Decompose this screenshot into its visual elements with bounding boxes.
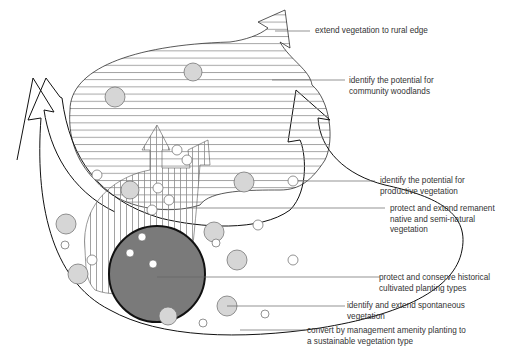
label-line: cultivated planting types: [379, 284, 490, 295]
core-dot: [126, 249, 134, 257]
label-line: protect and extend remanent: [390, 204, 495, 215]
label-historical-planting: protect and conserve historical cultivat…: [379, 273, 490, 294]
label-line: native and semi-natural: [390, 215, 495, 226]
label-line: protect and conserve historical: [379, 273, 490, 284]
label-line: a sustainable vegetation type: [307, 337, 466, 348]
label-line: productive vegetation: [380, 187, 465, 198]
label-line: identify and extend spontaneous: [347, 301, 465, 312]
label-line: vegetation: [390, 225, 495, 236]
historical-core: [109, 226, 205, 322]
label-productive-vegetation: identify the potential for productive ve…: [380, 176, 465, 197]
label-rural-edge: extend vegetation to rural edge: [315, 26, 428, 37]
label-line: extend vegetation to rural edge: [315, 26, 428, 37]
label-line: vegetation: [347, 312, 465, 323]
core-dot: [149, 260, 157, 268]
label-community-woodlands: identify the potential for community woo…: [349, 76, 434, 97]
label-line: identify the potential for: [349, 76, 434, 87]
label-line: community woodlands: [349, 87, 434, 98]
core-dot: [138, 233, 146, 241]
label-amenity-planting: convert by management amenity planting t…: [307, 326, 466, 347]
label-remanent-native: protect and extend remanent native and s…: [390, 204, 495, 236]
label-line: identify the potential for: [380, 176, 465, 187]
label-spontaneous-vegetation: identify and extend spontaneous vegetati…: [347, 301, 465, 322]
label-line: convert by management amenity planting t…: [307, 326, 466, 337]
